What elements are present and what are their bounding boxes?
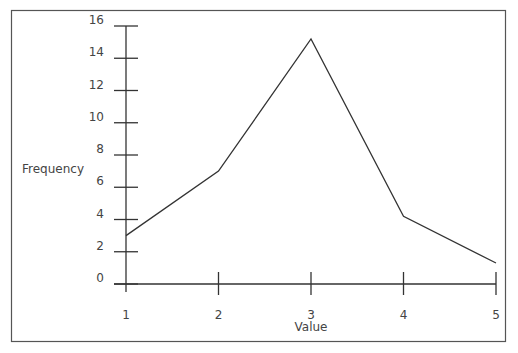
x-tick-label: 5 <box>492 308 500 322</box>
y-tick-label: 8 <box>96 142 104 156</box>
y-tick-label: 16 <box>89 13 104 27</box>
x-tick-label: 1 <box>122 308 130 322</box>
frequency-line-chart: 0246810121416 12345 Frequency Value <box>0 0 518 353</box>
x-axis-label: Value <box>295 320 328 334</box>
y-tick-label: 2 <box>96 239 104 253</box>
chart-frame <box>12 11 506 342</box>
y-tick-label: 14 <box>89 45 104 59</box>
y-axis-label: Frequency <box>22 162 84 176</box>
y-tick-label: 10 <box>89 110 104 124</box>
y-tick-label: 12 <box>89 78 104 92</box>
y-tick-label: 4 <box>96 207 104 221</box>
y-tick-label: 0 <box>96 271 104 285</box>
x-tick-label: 4 <box>400 308 408 322</box>
x-tick-label: 2 <box>215 308 223 322</box>
y-tick-label: 6 <box>96 174 104 188</box>
